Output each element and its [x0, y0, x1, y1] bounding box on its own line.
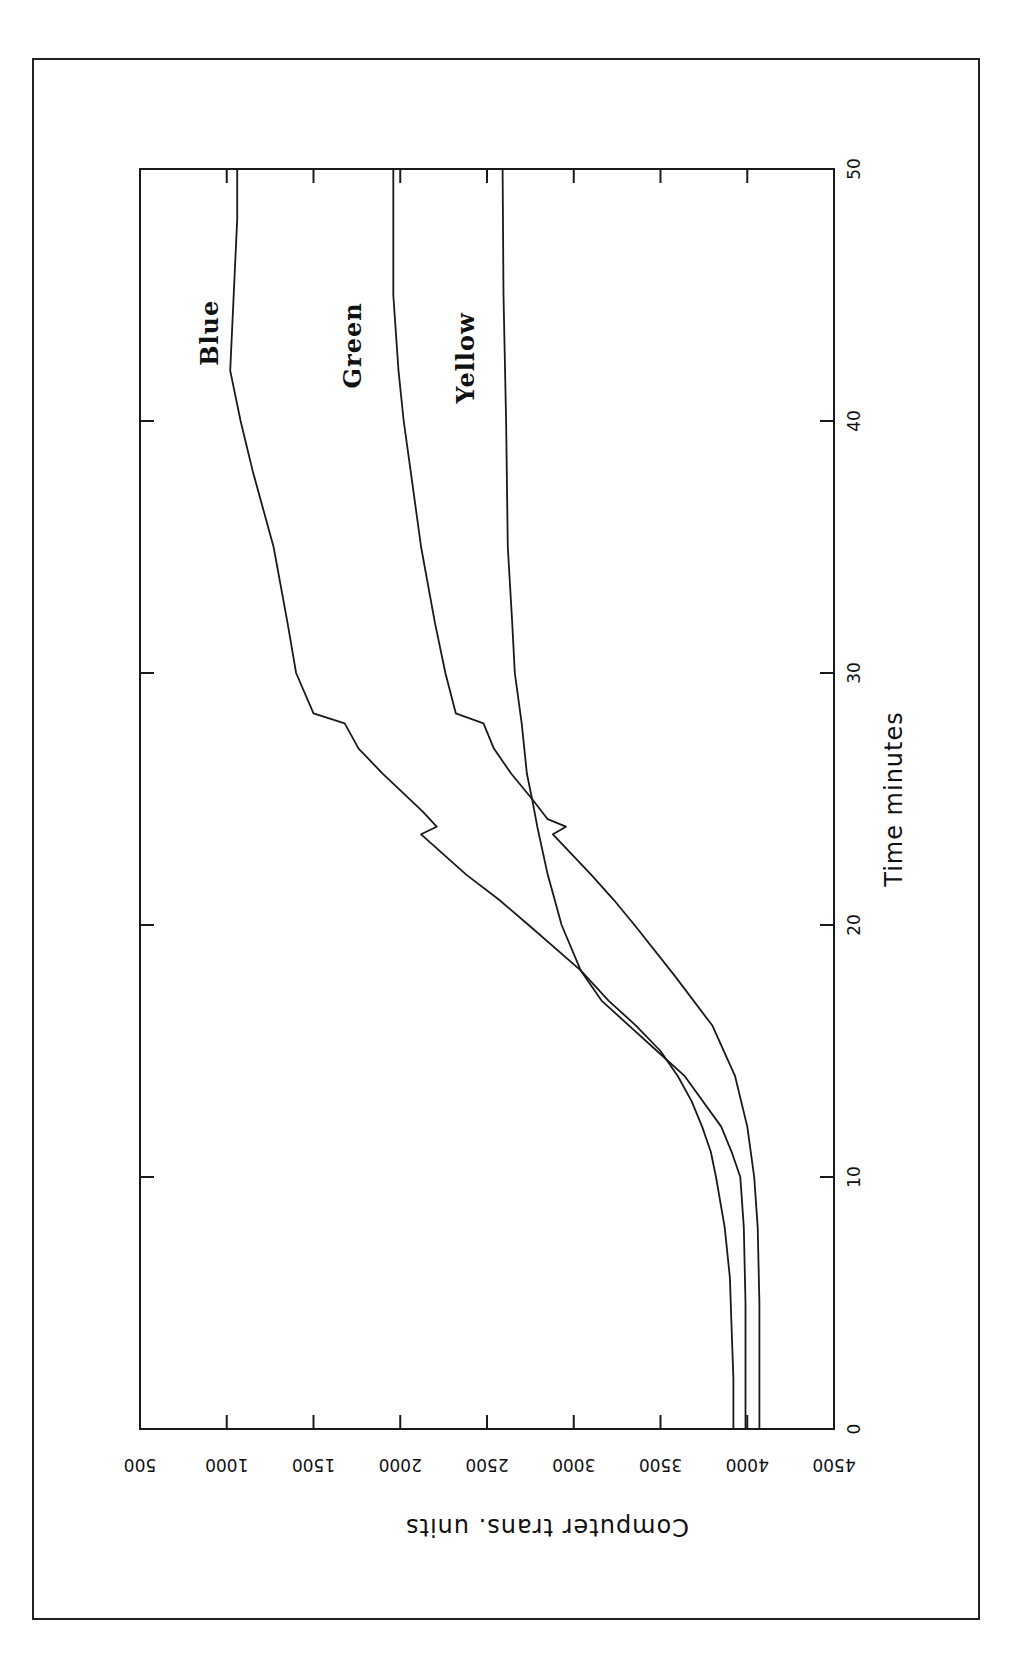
series-label-blue: Blue: [195, 300, 224, 366]
value-tick-label: 4000: [726, 1455, 769, 1475]
value-tick-label: 4500: [812, 1455, 855, 1475]
time-tick-label: 20: [844, 914, 864, 936]
value-tick-label: 2000: [379, 1455, 422, 1475]
plot-area: [140, 169, 834, 1429]
curve-blue: [230, 169, 745, 1429]
value-tick-label: 3000: [552, 1455, 595, 1475]
time-tick-label: 50: [844, 158, 864, 180]
plot-frame: [140, 169, 834, 1429]
chart-labels: Time minutes Computer trans. units Blue …: [195, 300, 908, 1541]
value-tick-label: 2500: [465, 1455, 508, 1475]
y-axis-label: Computer trans. units: [405, 1513, 689, 1541]
curve-green: [393, 169, 759, 1429]
time-tick-label: 0: [844, 1424, 864, 1435]
time-tick-label: 10: [844, 1166, 864, 1188]
x-axis-label: Time minutes: [880, 711, 908, 888]
rotated-line-chart: 4500400035003000250020001500100050001020…: [0, 0, 1019, 1663]
time-tick-label: 30: [844, 662, 864, 684]
value-tick-label: 3500: [639, 1455, 682, 1475]
time-tick-label: 40: [844, 410, 864, 432]
series-label-green: Green: [338, 302, 367, 388]
curve-yellow: [503, 169, 734, 1429]
series-label-yellow: Yellow: [451, 312, 480, 405]
axis-ticks: 4500400035003000250020001500100050001020…: [124, 158, 864, 1475]
value-tick-label: 1500: [292, 1455, 335, 1475]
data-curves: [230, 169, 759, 1429]
value-tick-label: 500: [124, 1455, 156, 1475]
value-tick-label: 1000: [205, 1455, 248, 1475]
